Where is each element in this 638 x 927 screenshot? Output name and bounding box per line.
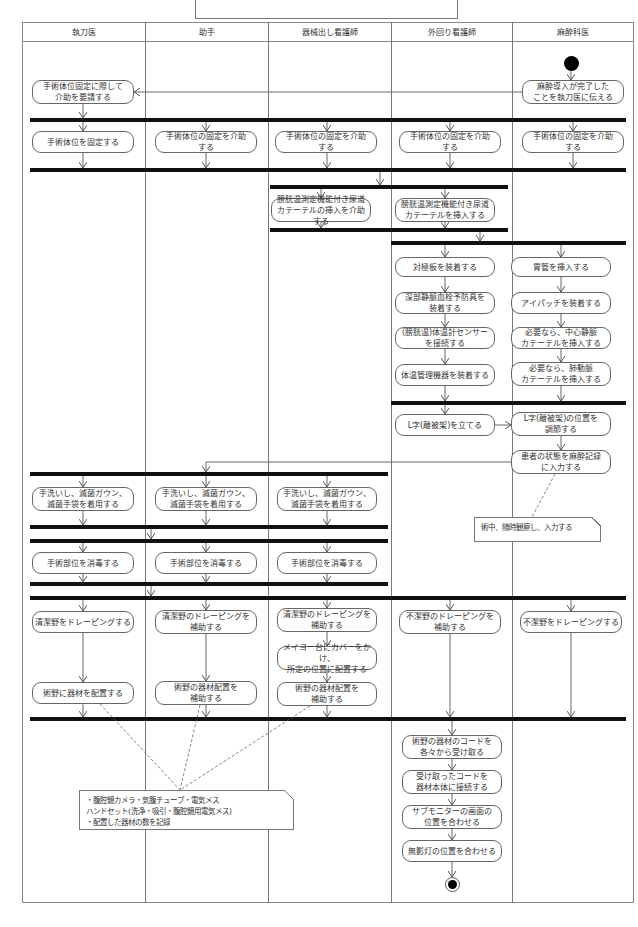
action-node-surgeon: 手術体位固定に際して 介助を要請する <box>32 80 134 104</box>
action-node-scrub-nurse: 手術体位の固定を介助 する <box>275 131 377 153</box>
action-node-scrub-nurse: 膀胱温測定機能付き尿道 カテーテルの挿入を介助する <box>271 198 371 222</box>
note-box: ・腹腔鏡カメラ・気腹チューブ・電気メス ハンドセット(洗浄・吸引・腹腔鏡用電気メ… <box>79 790 294 830</box>
fork-join-bar <box>30 717 626 721</box>
lane-header-scrub-nurse: 器械出し看護師 <box>268 22 391 42</box>
fork-join-bar <box>391 401 626 405</box>
action-node-assistant: 手洗いし、滅菌ガウン、 滅菌手袋を着用する <box>155 487 257 511</box>
lane-divider <box>268 22 269 903</box>
action-node-scrub-nurse: 術野の器材配置を 補助する <box>277 682 377 706</box>
note-text: 術中、随時観察し、入力する <box>481 523 572 532</box>
action-node-scrub-nurse: メイヨー台にカバーをかけ、 所定の位置に配置する <box>277 646 377 670</box>
action-node-circulating-nurse: 不潔野のドレーピングを 補助する <box>399 610 501 634</box>
action-node-scrub-nurse: 手術部位を消毒する <box>277 552 377 574</box>
action-node-scrub-nurse: 清潔野のドレーピングを 補助する <box>277 608 377 632</box>
fork-join-bar <box>30 525 388 529</box>
action-node-surgeon: 手洗いし、滅菌ガウン、 滅菌手袋を着用する <box>32 487 134 511</box>
action-node-assistant: 術野の器材配置を 補助する <box>155 681 257 705</box>
fork-join-bar <box>270 228 508 232</box>
action-node-circulating-nurse: 術野の器材のコードを 各々から受け取る <box>402 735 502 759</box>
fork-join-bar <box>270 185 508 189</box>
fork-join-bar <box>30 596 626 600</box>
fork-join-bar <box>30 539 388 543</box>
lane-header-surgeon: 執刀医 <box>22 22 145 42</box>
action-node-anesthesiologist: 麻酔導入が完了した ことを執刀医に伝える <box>522 80 624 104</box>
action-node-anesthesiologist: 不潔野をドレーピングする <box>520 611 622 633</box>
action-node-assistant: 手術体位の固定を介助 する <box>155 131 257 153</box>
lane-header-anesthesiologist: 麻酔科医 <box>512 22 634 42</box>
fork-join-bar <box>30 118 626 122</box>
action-node-circulating-nurse: 対極板を装着する <box>395 257 495 277</box>
fork-join-bar <box>30 168 626 172</box>
action-node-anesthesiologist: 必要なら、肺動脈 カテーテルを挿入する <box>511 362 611 386</box>
action-node-assistant: 手術部位を消毒する <box>155 552 257 574</box>
lane-header-circulating-nurse: 外回り看護師 <box>391 22 512 42</box>
action-node-anesthesiologist: 必要なら、中心静脈 カテーテルを挿入する <box>511 327 611 349</box>
action-node-surgeon: 術野に器材を配置する <box>32 682 134 704</box>
action-node-scrub-nurse: 手洗いし、滅菌ガウン、 滅菌手袋を着用する <box>277 487 377 511</box>
final-node-icon <box>445 877 460 892</box>
action-node-circulating-nurse: L字(離被架)を立てる <box>395 414 495 436</box>
fork-join-bar <box>391 241 626 245</box>
diagram-title-box <box>195 0 458 19</box>
activity-diagram: 執刀医助手器械出し看護師外回り看護師麻酔科医 麻酔導入が完了した ことを執刀医に… <box>0 0 638 927</box>
action-node-assistant: 清潔野のドレーピングを 補助する <box>155 610 257 634</box>
action-node-circulating-nurse: (膀胱温)体温計センサー を接続する <box>395 327 495 349</box>
action-node-anesthesiologist: L字(離被架)の位置を 調節する <box>511 412 611 436</box>
note-text: ・腹腔鏡カメラ・気腹チューブ・電気メス ハンドセット(洗浄・吸引・腹腔鏡用電気メ… <box>86 796 232 827</box>
lane-divider <box>145 22 146 903</box>
initial-node-icon <box>564 56 579 71</box>
action-node-anesthesiologist: 胃管を挿入する <box>511 257 611 277</box>
folded-corner-icon <box>592 517 601 526</box>
action-node-surgeon: 清潔野をドレーピングする <box>32 611 134 633</box>
action-node-anesthesiologist: 手術体位の固定を介助 する <box>522 131 624 153</box>
fork-join-bar <box>30 582 388 586</box>
action-node-anesthesiologist: 患者の状態を麻酔記録 に入力する <box>511 450 611 474</box>
action-node-circulating-nurse: 無影灯の位置を合わせる <box>402 840 502 862</box>
lane-divider <box>391 22 392 903</box>
action-node-surgeon: 手術体位を固定する <box>32 131 134 153</box>
action-node-surgeon: 手術部位を消毒する <box>32 552 134 574</box>
action-node-circulating-nurse: 深部静脈血栓予防具を 装着する <box>395 292 495 314</box>
action-node-circulating-nurse: サブモニターの画面の 位置を合わせる <box>402 805 502 829</box>
lane-header-assistant: 助手 <box>145 22 268 42</box>
folded-corner-icon <box>285 790 294 799</box>
action-node-anesthesiologist: アイパッチを装着する <box>511 292 611 314</box>
action-node-circulating-nurse: 手術体位の固定を介助 する <box>399 131 501 153</box>
fork-join-bar <box>30 472 388 476</box>
note-box: 術中、随時観察し、入力する <box>474 517 601 542</box>
action-node-circulating-nurse: 膀胱温測定機能付き尿道 カテーテルを挿入する <box>395 198 495 222</box>
action-node-circulating-nurse: 受け取ったコードを 器材本体に接続する <box>402 770 502 794</box>
action-node-circulating-nurse: 体温管理機器を装着する <box>395 364 495 386</box>
